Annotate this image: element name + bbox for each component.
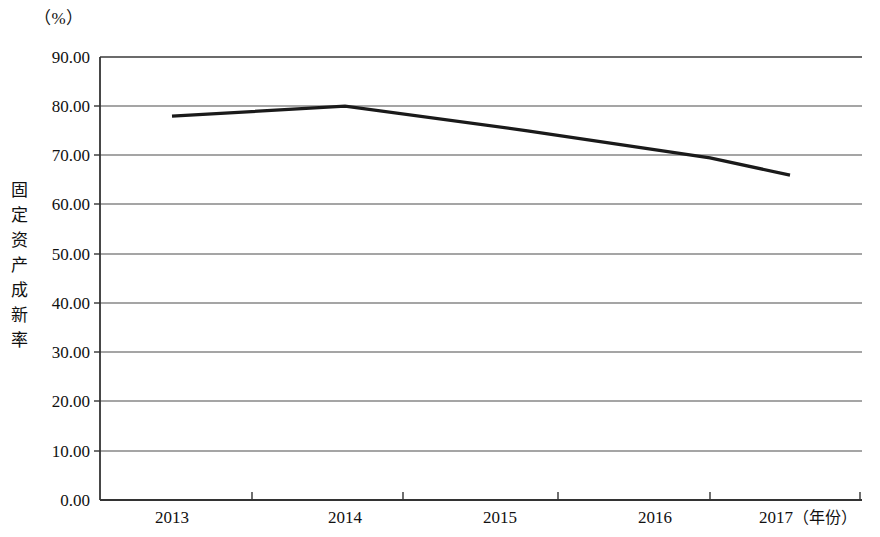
data-series-line [172, 106, 790, 175]
line-chart: （%） 固 定 资 产 成 新 率 90.00 80.00 70.00 60.0… [0, 0, 880, 537]
x-axis-unit-label: （年份） [793, 508, 857, 527]
x-tick-label-2014: 2014 [328, 509, 362, 526]
x-tick-label-2013: 2013 [155, 509, 189, 526]
plot-area [0, 0, 880, 537]
x-axis-ticks [252, 492, 860, 500]
x-tick-label-2016: 2016 [638, 509, 672, 526]
x-tick-label-2015: 2015 [483, 509, 517, 526]
x-tick-label-2017-text: 2017 [759, 508, 793, 527]
gridlines [100, 57, 862, 451]
x-tick-label-2017: 2017（年份） [759, 509, 857, 526]
